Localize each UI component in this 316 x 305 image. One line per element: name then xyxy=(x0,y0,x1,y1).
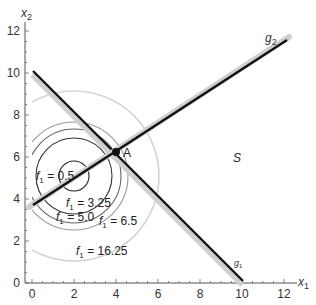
y-tick-6: 6 xyxy=(13,150,20,164)
x-tick-0: 0 xyxy=(29,287,36,301)
x-tick-8: 8 xyxy=(197,287,204,301)
y-tick-10: 10 xyxy=(7,66,21,80)
point-a-label: A xyxy=(123,146,131,160)
y-axis-label: x2 xyxy=(20,6,32,22)
x-axis-label: x1 xyxy=(297,275,309,291)
x-tick-2: 2 xyxy=(71,287,78,301)
g1-label: g1 xyxy=(234,258,243,269)
y-tick-4: 4 xyxy=(13,192,20,206)
y-tick-0: 0 xyxy=(13,276,20,290)
contour-label-6.5: f1 = 6.5 xyxy=(99,214,137,230)
x-tick-6: 6 xyxy=(155,287,162,301)
x-tick-12: 12 xyxy=(277,287,291,301)
x-tick-10: 10 xyxy=(235,287,249,301)
y-tick-12: 12 xyxy=(7,24,21,38)
region-s-label: S xyxy=(233,151,241,165)
y-tick-8: 8 xyxy=(13,108,20,122)
x-tick-4: 4 xyxy=(113,287,120,301)
g2-label: g2 xyxy=(265,31,277,47)
contour-label-16.25: f1 = 16.25 xyxy=(76,244,128,260)
point-a xyxy=(112,148,120,156)
y-tick-2: 2 xyxy=(13,234,20,248)
diagram-canvas: 0 2 4 6 8 10 12 0 2 4 6 8 10 12 x2 x1 g1… xyxy=(0,0,316,305)
contour-label-0.5: f1 = 0.5 xyxy=(36,169,74,185)
